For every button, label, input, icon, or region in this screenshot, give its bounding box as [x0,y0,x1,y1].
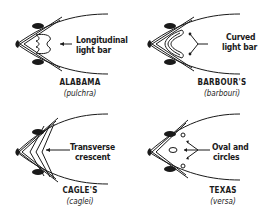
callout-line-2: crescent [70,152,115,162]
panel-barbours: Curved light bar BARBOUR'S (barbouri) [132,0,264,108]
scientific-name: (pulchra) [55,89,105,98]
common-name: BARBOUR'S [192,78,252,87]
callout-line-1: Transverse [70,142,115,152]
callout-line-1: Curved [222,32,257,42]
callout-label: Oval and circles [212,142,248,162]
callout-line-1: Longitudinal [76,35,128,45]
common-name: CAGLE'S [55,186,105,195]
callout-line-1: Oval and [212,142,248,152]
callout-label: Longitudinal light bar [76,35,128,55]
scientific-name: (barbouri) [192,89,252,98]
panel-texas: Oval and circles TEXAS (versa) [132,108,264,216]
callout-line-2: circles [212,152,248,162]
panel-cagles: Transverse crescent CAGLE'S (caglei) [0,108,132,216]
common-name: TEXAS [198,186,248,195]
scientific-name: (versa) [198,197,248,206]
panel-alabama: Longitudinal light bar ALABAMA (pulchra) [0,0,132,108]
callout-line-2: light bar [76,45,128,55]
callout-label: Curved light bar [222,32,257,52]
callout-label: Transverse crescent [70,142,115,162]
common-name: ALABAMA [55,78,105,87]
scientific-name: (caglei) [55,197,105,206]
callout-line-2: light bar [222,42,257,52]
